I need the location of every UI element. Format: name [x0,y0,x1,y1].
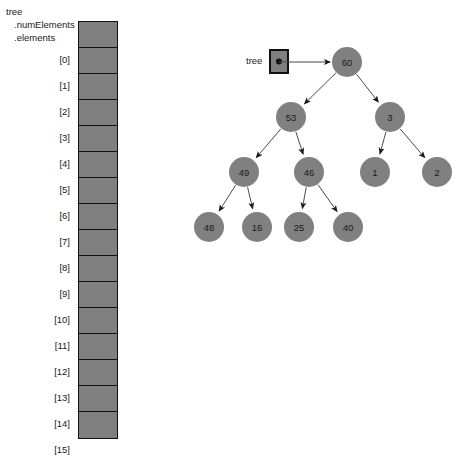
tree-node: 49 [229,157,259,187]
array-cell [79,386,117,412]
array-cell [79,74,117,100]
array-cell [79,334,117,360]
tree-svg: 6053349461248162540 [160,0,476,464]
array-index-label: [12] [0,359,74,385]
array-cell-column [78,21,118,439]
tree-node: 25 [284,212,314,242]
tree-node: 40 [333,212,363,242]
array-cell [79,308,117,334]
tree-node-label: 2 [434,167,439,178]
tree-diagram: tree 6053349461248162540 [160,0,476,464]
array-index-label: [2] [0,99,74,125]
array-index-label: [10] [0,307,74,333]
tree-node-label: 3 [387,112,392,123]
tree-node: 48 [194,212,224,242]
tree-node: 16 [242,212,272,242]
array-cell [79,22,117,48]
tree-node-label: 25 [294,222,305,233]
array-cell [79,100,117,126]
tree-node-label: 16 [252,222,263,233]
array-index-label: [11] [0,333,74,359]
array-index-label: [0] [0,47,74,73]
tree-node-label: 49 [239,167,250,178]
tree-node: 1 [360,157,390,187]
array-cell [79,360,117,386]
tree-edge [219,185,235,211]
tree-edge [318,185,337,212]
tree-edge [296,132,303,154]
array-cell [79,230,117,256]
array-index-label-column: [0][1][2][3][4][5][6][7][8][9][10][11][1… [0,47,74,463]
tree-node-label: 53 [286,112,297,123]
array-index-label: [6] [0,203,74,229]
array-cell [79,48,117,74]
field-numelements-label: .numElements [14,19,75,30]
array-index-label: [13] [0,385,74,411]
array-index-label: [5] [0,177,74,203]
array-cell [79,152,117,178]
array-index-label: [7] [0,229,74,255]
array-cell [79,126,117,152]
struct-name-label: tree [6,6,22,17]
tree-node: 60 [332,47,362,77]
tree-edge [248,187,253,208]
tree-node-label: 40 [343,222,354,233]
array-diagram: tree .numElements .elements [0][1][2][3]… [0,0,160,464]
tree-node-label: 48 [204,222,215,233]
tree-edge [302,187,306,208]
tree-edge [380,132,386,154]
tree-pointer-group [270,50,330,73]
tree-edge [400,129,425,158]
tree-node: 3 [375,102,405,132]
tree-edge [256,129,281,158]
array-index-label: [4] [0,151,74,177]
array-index-label: [15] [0,437,74,463]
field-elements-label: .elements [14,32,55,43]
tree-node-label: 1 [372,167,377,178]
array-index-label: [1] [0,73,74,99]
array-index-label: [3] [0,125,74,151]
array-cell [79,412,117,438]
tree-edge [305,73,336,104]
diagram-page: tree .numElements .elements [0][1][2][3]… [0,0,476,464]
array-cell [79,256,117,282]
tree-edges-group [219,73,424,212]
tree-node-label: 60 [342,57,353,68]
tree-node: 2 [422,157,452,187]
array-cell [79,204,117,230]
tree-node: 53 [276,102,306,132]
array-index-label: [9] [0,281,74,307]
array-index-label: [14] [0,411,74,437]
array-index-label: [8] [0,255,74,281]
array-cell [79,282,117,308]
array-cell [79,178,117,204]
tree-node-label: 46 [304,167,315,178]
tree-node: 46 [294,157,324,187]
tree-edge [357,74,379,102]
